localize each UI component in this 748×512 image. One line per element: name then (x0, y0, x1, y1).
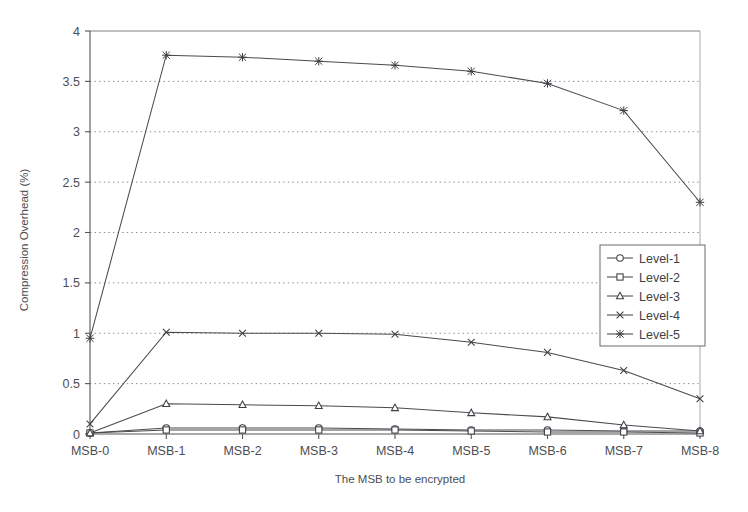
y-tick-label: 4 (73, 25, 80, 39)
y-tick-label: 0 (73, 428, 80, 442)
legend-label: Level-4 (639, 309, 680, 323)
star-marker (391, 61, 399, 69)
x-tick-label: MSB-5 (452, 444, 490, 458)
y-tick-label: 1.5 (63, 276, 80, 290)
star-marker (696, 198, 704, 206)
y-tick-label: 3 (73, 125, 80, 139)
y-tick-label: 0.5 (63, 377, 80, 391)
star-marker (86, 334, 94, 342)
legend-label: Level-5 (639, 328, 680, 342)
star-marker (616, 330, 624, 338)
line-chart-svg: 00.511.522.533.54 MSB-0MSB-1MSB-2MSB-3MS… (0, 0, 748, 512)
x-tick-label: MSB-3 (300, 444, 338, 458)
square-marker (392, 427, 398, 433)
x-axis-tick-labels: MSB-0MSB-1MSB-2MSB-3MSB-4MSB-5MSB-6MSB-7… (71, 444, 719, 458)
y-axis-title: Compression Overhead (%) (18, 169, 30, 312)
chart-figure: 00.511.522.533.54 MSB-0MSB-1MSB-2MSB-3MS… (0, 0, 748, 512)
star-marker (543, 79, 551, 87)
star-marker (620, 106, 628, 114)
square-marker (316, 427, 322, 433)
x-tick-label: MSB-4 (376, 444, 414, 458)
data-series-layer (86, 51, 704, 436)
square-marker (621, 429, 627, 435)
square-marker (239, 427, 245, 433)
x-axis-title: The MSB to be encrypted (335, 473, 465, 485)
x-tick-label: MSB-1 (147, 444, 185, 458)
y-tick-label: 2.5 (63, 176, 80, 190)
x-tick-label: MSB-2 (223, 444, 261, 458)
x-tick-label: MSB-0 (71, 444, 109, 458)
y-axis-tick-labels: 00.511.522.533.54 (63, 25, 80, 442)
star-marker (162, 51, 170, 59)
legend-label: Level-2 (639, 271, 680, 285)
circle-marker (617, 255, 624, 262)
legend-label: Level-1 (639, 252, 680, 266)
square-marker (468, 428, 474, 434)
star-marker (315, 57, 323, 65)
y-tick-label: 2 (73, 226, 80, 240)
x-tick-label: MSB-6 (528, 444, 566, 458)
star-marker (238, 53, 246, 61)
star-marker (467, 67, 475, 75)
y-tick-label: 1 (73, 327, 80, 341)
cross-marker (620, 367, 627, 374)
square-marker (617, 274, 623, 280)
square-marker (163, 427, 169, 433)
x-tick-label: MSB-7 (605, 444, 643, 458)
legend-label: Level-3 (639, 290, 680, 304)
chart-legend: Level-1Level-2Level-3Level-4Level-5 (600, 245, 705, 346)
square-marker (544, 429, 550, 435)
y-tick-label: 3.5 (63, 75, 80, 89)
axis-layer (85, 31, 700, 439)
x-tick-label: MSB-8 (681, 444, 719, 458)
